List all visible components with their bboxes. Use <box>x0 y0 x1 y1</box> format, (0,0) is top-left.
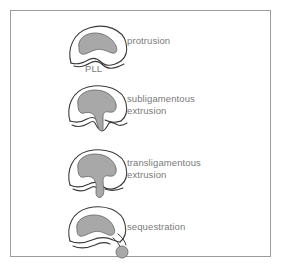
figure-frame: protrusion PLL subligamentous extrusion <box>10 10 271 257</box>
figure-label-subligamentous-extrusion: subligamentous extrusion <box>127 93 195 116</box>
figure-row-subligamentous-extrusion: subligamentous extrusion <box>11 81 272 143</box>
figure-row-sequestration: sequestration <box>11 203 272 265</box>
pll-annotation-label: PLL <box>85 63 102 74</box>
figure-row-transligamentous-extrusion: transligamentous extrusion <box>11 145 272 207</box>
figure-label-transligamentous-extrusion: transligamentous extrusion <box>127 157 201 180</box>
disc-sequestration-diagram <box>61 203 141 265</box>
figure-label-sequestration: sequestration <box>127 221 185 233</box>
figure-label-protrusion: protrusion <box>127 35 170 47</box>
figure-panel: protrusion PLL subligamentous extrusion <box>0 0 282 268</box>
figure-row-protrusion: protrusion PLL <box>11 19 272 81</box>
